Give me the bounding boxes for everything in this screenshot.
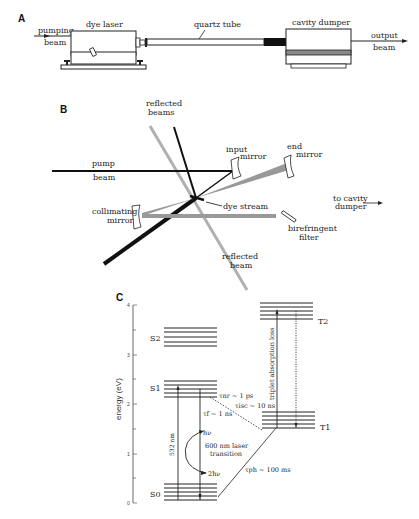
collimating-label-2: mirror — [107, 216, 134, 225]
dye-laser-box-top — [71, 31, 136, 55]
pump-532-label: 532 nm — [168, 433, 175, 456]
tau-isc-label: τisc ~ 10 ns — [235, 402, 275, 410]
reflected-beam-label-2: beam — [230, 261, 253, 270]
s2-levels — [164, 328, 217, 346]
pump-label-2: beam — [93, 173, 116, 182]
s1-levels — [164, 381, 217, 397]
y-tick-1: 1 — [127, 451, 130, 457]
cavity-dumper-box — [286, 29, 351, 64]
panel-label-c: C — [116, 292, 123, 303]
two-hv-label: 2hν — [208, 470, 220, 478]
t1-label: T1 — [320, 423, 330, 432]
pumping-label-2: beam — [44, 38, 67, 47]
collimating-label-1: collimating — [92, 207, 137, 216]
dye-stream-pointer — [206, 202, 222, 206]
cavity-dumper-base — [291, 64, 346, 68]
y-axis-ticks — [133, 305, 137, 503]
beam-to-dumper — [142, 214, 276, 218]
beam-to-collimating — [142, 198, 196, 216]
panel-a: A pumping beam dye laser quartz tube cav… — [18, 13, 408, 69]
birefringent-label-2: filter — [299, 233, 319, 242]
end-mirror-icon — [284, 155, 294, 178]
coupler — [136, 38, 140, 47]
pump-label-1: pump — [92, 159, 115, 168]
tube-end-block — [264, 38, 286, 46]
t2-label: T2 — [318, 317, 328, 326]
s1-label: S1 — [150, 384, 161, 393]
y-tick-0: 0 — [127, 500, 130, 506]
hv-label: hν — [203, 429, 211, 437]
tau-nr-label: τnr ~ 1 ps — [219, 392, 253, 400]
y-axis-label: energy (eV) — [114, 378, 123, 420]
tau-ph-label: τph ~ 100 ms — [245, 466, 291, 474]
s2-label: S2 — [150, 334, 161, 343]
cavity-dumper-stripe — [286, 50, 351, 55]
dye-laser-label: dye laser — [86, 20, 123, 29]
reflected-beams-label-1: reflected — [146, 99, 182, 108]
panel-b: B reflected beams pump beam dye stream i… — [52, 99, 383, 290]
t2-levels — [260, 303, 313, 319]
panel-label-a: A — [18, 13, 25, 24]
to-cavity-arrow-icon — [378, 201, 383, 205]
birefringent-label-1: birefringent — [288, 224, 338, 233]
laser-transition-label-2: transition — [210, 450, 242, 458]
stimulated-emission-curve — [185, 432, 206, 473]
figure-canvas: A pumping beam dye laser quartz tube cav… — [0, 0, 419, 519]
panel-c: C 4 3 2 1 0 energy (eV) S2 — [114, 292, 330, 506]
pumping-label-1: pumping — [38, 26, 74, 35]
s0-levels — [164, 484, 217, 500]
tau-f-label: τf ~ 1 ns — [203, 410, 232, 418]
output-label-2: beam — [373, 43, 396, 52]
cavity-dumper-label: cavity dumper — [292, 18, 350, 27]
panel-label-b: B — [60, 104, 67, 115]
quartz-tube — [147, 39, 264, 45]
reflected-beam-label-1: reflected — [222, 252, 258, 261]
dye-laser-box-bottom — [71, 52, 136, 64]
s0-label: S0 — [150, 490, 161, 499]
output-arrow-icon — [402, 39, 408, 43]
triplet-loss-label: triplet absorption loss — [268, 327, 276, 400]
quartz-tube-label: quartz tube — [194, 20, 241, 29]
quartz-pointer — [199, 30, 205, 39]
to-cavity-label-2: dumper — [335, 202, 367, 211]
beam-to-end-mirror — [196, 163, 289, 198]
reflected-beams-label-2: beams — [148, 108, 174, 117]
laser-transition-label-1: 600 nm laser — [205, 442, 249, 450]
y-tick-2: 2 — [127, 401, 130, 407]
t1-levels — [262, 412, 315, 428]
birefringent-filter-icon — [281, 211, 296, 223]
dye-laser-base — [61, 65, 146, 69]
input-mirror-label-2: mirror — [240, 152, 267, 161]
end-mirror-label-2: mirror — [296, 150, 323, 159]
focused-pump — [196, 171, 233, 198]
phosphorescence-line — [218, 428, 276, 497]
output-label-1: output — [371, 31, 398, 40]
y-tick-3: 3 — [127, 352, 130, 358]
y-tick-4: 4 — [127, 302, 130, 308]
dye-stream-label: dye stream — [223, 202, 269, 211]
